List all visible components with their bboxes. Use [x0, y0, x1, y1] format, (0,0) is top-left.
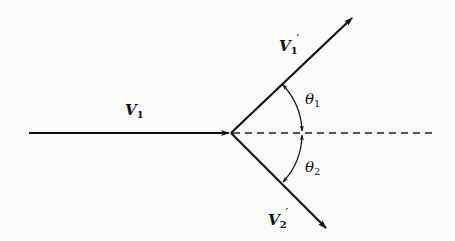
label-theta1: θ1	[305, 92, 320, 109]
angle-arc-theta2	[283, 135, 302, 182]
diagram-graphics	[0, 0, 455, 241]
angle-arc-theta1	[283, 85, 303, 132]
label-theta2: θ2	[305, 160, 320, 177]
label-v2-prime: V2′	[268, 208, 288, 230]
label-v1: V1	[125, 103, 144, 120]
collision-diagram: V1 V1′ V2′ θ1 θ2	[0, 0, 455, 241]
label-v1-prime: V1′	[279, 34, 299, 56]
